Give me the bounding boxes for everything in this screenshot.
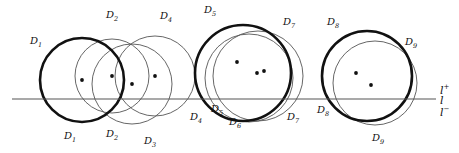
lbl-D1-top: D1 <box>30 36 42 49</box>
lbl-D6-bottom: D6 <box>229 117 241 130</box>
lbl-D9-top: D9 <box>405 37 417 50</box>
lbl-D4-top: D4 <box>160 11 172 24</box>
center-dot <box>369 83 373 87</box>
center-dot <box>354 71 358 75</box>
axis-label-l-minus: l− <box>440 106 449 118</box>
center-dot <box>130 82 134 86</box>
lbl-D8-bottom: D8 <box>317 105 329 118</box>
disk-d8 <box>322 31 412 121</box>
center-dot <box>80 78 84 82</box>
lbl-D7-top: D7 <box>283 17 295 30</box>
lbl-D9-bottom: D9 <box>372 133 384 146</box>
lbl-D2-bottom: D2 <box>106 129 118 142</box>
lbl-D7-bottom: D7 <box>287 112 299 125</box>
disk-d7 <box>213 31 303 121</box>
center-dot <box>255 71 259 75</box>
center-dot <box>110 74 114 78</box>
disk-d5 <box>195 25 291 121</box>
lbl-D8-top: D8 <box>327 17 339 30</box>
lbl-D3-bottom: D3 <box>144 136 156 149</box>
center-dot <box>235 60 239 64</box>
center-dot <box>153 74 157 78</box>
center-dot <box>262 69 266 73</box>
lbl-D4-bottom: D4 <box>190 112 202 125</box>
lbl-D2-top: D2 <box>106 10 118 23</box>
lbl-D1-bottom: D1 <box>64 131 76 144</box>
disk-d9 <box>333 41 417 125</box>
thin-circle-group <box>75 31 417 125</box>
lbl-D5-top: D5 <box>204 5 216 18</box>
figure-canvas: D1D2D4D5D7D8D9D1D2D3D4D5D6D7D8D9 l+ll− <box>0 0 459 153</box>
lbl-D5-bottom: D5 <box>211 104 223 117</box>
